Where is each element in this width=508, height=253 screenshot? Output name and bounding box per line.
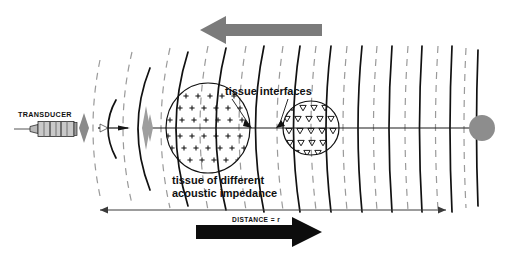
gray-circle-icon [469, 115, 495, 141]
tissue-impedance-label-line2: acoustic impedance [172, 187, 277, 199]
pulse-packet-near [98, 124, 130, 132]
tissue-region-triangle [283, 101, 339, 156]
tissue-interfaces-leaders [232, 99, 288, 128]
distance-dimension-line [100, 207, 446, 214]
return-echo-arrow [200, 16, 322, 44]
solid-wavefronts [108, 46, 478, 212]
diagram-canvas: TRANSDUCER tissue interfaces tissue of d… [0, 0, 508, 253]
transducer-label: TRANSDUCER [18, 110, 72, 119]
tissue-impedance-label-line1: tissue of different [172, 174, 265, 186]
dimension-arrowhead-right [438, 207, 446, 214]
dimension-arrowhead-left [100, 207, 108, 214]
tissue-interfaces-label: tissue interfaces [225, 85, 312, 97]
pulse-packets [79, 106, 153, 150]
ultrasound-diagram: TRANSDUCER tissue interfaces tissue of d… [0, 0, 508, 253]
distance-label: DISTANCE = r [232, 216, 280, 223]
transducer-probe-icon [14, 122, 77, 137]
